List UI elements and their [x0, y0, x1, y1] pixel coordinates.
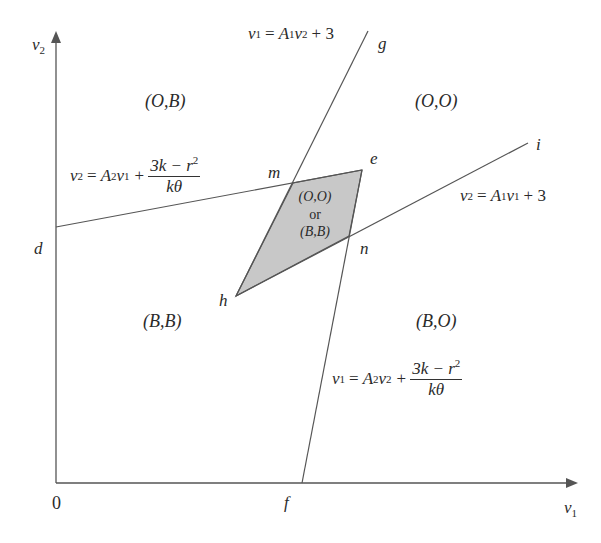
eq-fe-num-sup: 2 [455, 357, 461, 369]
eq-de-v-sub: 1 [124, 170, 130, 182]
eq-de-equals: = [87, 166, 97, 186]
point-h-label: h [219, 292, 228, 309]
region-bottom-left: (B,B) [143, 312, 181, 330]
eq-hg-equals: = [265, 24, 275, 44]
eq-fe-numerator: 3k − r2 [410, 358, 462, 380]
eq-hg-lhs: v [248, 24, 256, 44]
shaded-region-label: (O,O) or (B,B) [280, 188, 350, 241]
phase-diagram [0, 0, 601, 543]
eq-fe-lhs-sub: 1 [340, 373, 346, 385]
eq-de-a: A [101, 166, 111, 186]
eq-fe-denominator: kθ [428, 380, 444, 400]
region-top-left: (O,B) [145, 92, 185, 110]
x-axis-var: v [564, 498, 572, 517]
eq-hi-lhs: v [460, 186, 468, 206]
eq-de-lhs: v [70, 166, 78, 186]
eq-de-lhs-sub: 2 [78, 170, 84, 182]
point-d-label: d [34, 240, 43, 257]
y-axis-label: v2 [32, 36, 45, 56]
eq-hi-equals: = [477, 186, 487, 206]
y-axis-var: v [32, 35, 40, 54]
shaded-label-line2: or [280, 206, 350, 224]
eq-de-num-sup: 2 [193, 154, 199, 166]
eq-de-num-text: 3k − r [150, 156, 193, 175]
eq-hi-tail: + 3 [524, 186, 546, 206]
eq-fe-a: A [363, 369, 373, 389]
equation-line-f-e: v1 = A2 v2 + 3k − r2 kθ [332, 358, 462, 399]
y-axis-arrow-icon [51, 31, 61, 43]
eq-fe-v-sub: 2 [386, 373, 392, 385]
eq-hi-a: A [491, 186, 501, 206]
equation-line-h-i: v2 = A1 v1 + 3 [460, 186, 546, 206]
eq-de-v: v [117, 166, 125, 186]
region-top-right: (O,O) [415, 92, 458, 110]
eq-fe-fraction: 3k − r2 kθ [410, 358, 462, 399]
equation-line-h-g: v1 = A1 v2 + 3 [248, 24, 334, 44]
origin-label: 0 [52, 494, 61, 512]
eq-hi-v: v [507, 186, 515, 206]
eq-hi-lhs-sub: 2 [468, 190, 474, 202]
eq-fe-lhs: v [332, 369, 340, 389]
point-g-label: g [378, 35, 387, 52]
point-m-label: m [268, 164, 280, 181]
x-axis-label: v1 [564, 499, 577, 519]
eq-de-fraction: 3k − r2 kθ [148, 155, 200, 196]
point-i-label: i [536, 136, 541, 153]
point-e-label: e [370, 150, 378, 167]
point-f-label: f [284, 494, 289, 511]
shaded-label-line1: (O,O) [280, 188, 350, 206]
y-axis-sub: 2 [40, 44, 46, 56]
eq-de-denominator: kθ [166, 177, 182, 197]
eq-hg-v: v [295, 24, 303, 44]
eq-hg-v-sub: 2 [302, 28, 308, 40]
eq-hg-a: A [279, 24, 289, 44]
x-axis-arrow-icon [566, 478, 578, 488]
shaded-label-line3: (B,B) [280, 223, 350, 241]
eq-fe-equals: = [349, 369, 359, 389]
x-axis-sub: 1 [572, 507, 578, 519]
region-bottom-right: (B,O) [416, 312, 456, 330]
equation-line-d-e: v2 = A2 v1 + 3k − r2 kθ [70, 155, 200, 196]
eq-de-plus: + [135, 166, 145, 186]
eq-fe-v: v [379, 369, 387, 389]
eq-de-numerator: 3k − r2 [148, 155, 200, 177]
eq-fe-plus: + [397, 369, 407, 389]
eq-fe-num-text: 3k − r [412, 359, 455, 378]
eq-hg-lhs-sub: 1 [256, 28, 262, 40]
point-n-label: n [360, 240, 369, 257]
eq-hi-v-sub: 1 [514, 190, 520, 202]
eq-hg-tail: + 3 [312, 24, 334, 44]
